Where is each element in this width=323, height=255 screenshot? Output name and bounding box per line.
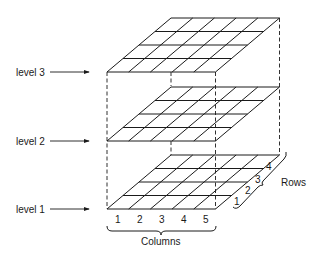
level-2-label: level 2 bbox=[16, 136, 45, 147]
level-grids bbox=[107, 18, 280, 209]
column-label-2: 2 bbox=[137, 214, 143, 225]
level-3-label: level 3 bbox=[16, 67, 45, 78]
column-label-4: 4 bbox=[181, 214, 187, 225]
rows-title: Rows bbox=[281, 177, 306, 188]
row-label-2: 2 bbox=[245, 185, 251, 196]
row-labels: 1 2 3 4 bbox=[234, 161, 272, 207]
row-label-1: 1 bbox=[234, 196, 240, 207]
row-label-4: 4 bbox=[266, 161, 272, 172]
column-label-5: 5 bbox=[203, 214, 209, 225]
columns-brace-icon bbox=[107, 226, 216, 235]
stacked-grid-diagram: level 3 level 2 level 1 1 2 3 4 5 Column… bbox=[0, 0, 323, 255]
grid-level-2 bbox=[107, 87, 280, 141]
level-labels: level 3 level 2 level 1 bbox=[16, 67, 89, 215]
column-labels: 1 2 3 4 5 bbox=[115, 214, 209, 225]
column-label-1: 1 bbox=[115, 214, 121, 225]
grid-level-3 bbox=[107, 18, 280, 72]
row-label-3: 3 bbox=[255, 174, 261, 185]
column-label-3: 3 bbox=[159, 214, 165, 225]
grid-level-1 bbox=[107, 155, 280, 209]
level-1-label: level 1 bbox=[16, 204, 45, 215]
columns-title: Columns bbox=[141, 236, 180, 247]
diagram-canvas: level 3 level 2 level 1 1 2 3 4 5 Column… bbox=[0, 0, 323, 255]
